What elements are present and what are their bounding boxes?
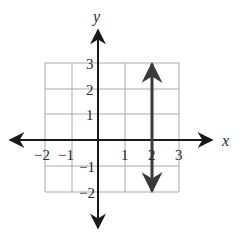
y-tick-label: 1: [86, 107, 94, 123]
x-tick-label: −2: [34, 147, 50, 163]
x-tick-label: 3: [175, 147, 183, 163]
x-axis-label: x: [221, 132, 229, 149]
x-tick-label: −1: [58, 147, 74, 163]
y-tick-label: 3: [86, 56, 94, 72]
x-tick-label: 1: [121, 147, 129, 163]
y-tick-label: −2: [79, 185, 95, 201]
y-axis-label: y: [91, 8, 101, 26]
y-tick-label: −1: [79, 159, 95, 175]
coordinate-plane: x y −2 −1 1 2 3 3 2 1 −1 −2: [0, 0, 247, 235]
grid: [45, 63, 179, 192]
x-tick-label: 2: [148, 147, 156, 163]
y-tick-label: 2: [86, 82, 94, 98]
